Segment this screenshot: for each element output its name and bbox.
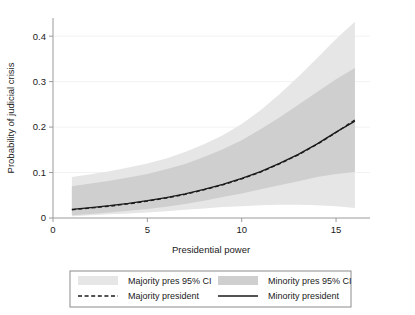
y-tick-label: 0.4 xyxy=(33,31,46,42)
y-axis-title: Probability of judicial crisis xyxy=(5,62,16,173)
judicial-crisis-chart: 00.10.20.30.4 051015 Probability of judi… xyxy=(0,0,415,315)
legend-swatch-majority-ci xyxy=(78,276,118,285)
legend-label-majority-line: Majority president xyxy=(128,291,200,301)
legend-swatch-minority-ci xyxy=(218,276,258,285)
y-tick-label: 0.1 xyxy=(33,167,46,178)
legend-label-minority-line: Minority president xyxy=(268,291,340,301)
chart-legend: Majority pres 95% CIMinority pres 95% CI… xyxy=(70,271,352,307)
y-tick-label: 0 xyxy=(41,212,46,223)
legend-label-majority-ci: Majority pres 95% CI xyxy=(128,276,212,286)
x-tick-label: 15 xyxy=(331,224,342,235)
y-tick-label: 0.2 xyxy=(33,121,46,132)
x-axis-title: Presidential power xyxy=(172,244,250,255)
x-tick-label: 10 xyxy=(236,224,247,235)
legend-label-minority-ci: Minority pres 95% CI xyxy=(268,276,352,286)
x-tick-label: 5 xyxy=(145,224,150,235)
y-tick-label: 0.3 xyxy=(33,76,46,87)
chart-figure: 00.10.20.30.4 051015 Probability of judi… xyxy=(0,0,415,315)
x-tick-label: 0 xyxy=(50,224,55,235)
